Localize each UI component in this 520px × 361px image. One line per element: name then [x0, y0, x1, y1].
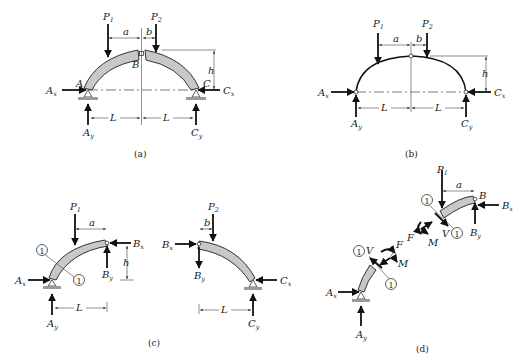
svg-text:1: 1	[77, 277, 82, 286]
pin-support-a	[43, 280, 61, 289]
svg-text:1: 1	[455, 230, 460, 239]
arch-segment-ab	[84, 50, 139, 90]
lower-axial-f-arrow	[380, 258, 390, 265]
upper-moment-tail	[421, 229, 428, 234]
label-ax: Ax	[325, 287, 337, 300]
label-l-right: L	[162, 112, 170, 123]
label-p2: P2	[150, 11, 162, 24]
upper-moment-m-arrow	[418, 222, 421, 234]
caption-c: (c)	[148, 338, 160, 348]
label-cy: Cy	[248, 318, 260, 331]
label-a: a	[456, 179, 462, 190]
label-p1: P1	[69, 201, 81, 214]
three-hinged-arch-figure: P1 P2 a b h A B C Ax Cx Ay Cy L L	[0, 0, 520, 361]
panel-b: P1 P2 a b h Ax Cx Ay Cy L L (b)	[317, 18, 506, 159]
pin-support-c	[244, 280, 262, 290]
lower-segment	[358, 265, 376, 292]
label-cy: Cy	[191, 127, 203, 140]
label-cy: Cy	[461, 118, 473, 131]
label-by-right: By	[193, 270, 205, 283]
label-bx: Bx	[132, 238, 144, 251]
panel-a: P1 P2 a b h A B C Ax Cx Ay Cy L L	[45, 11, 235, 159]
segment-ab	[49, 240, 108, 280]
label-l-left: L	[380, 102, 388, 113]
label-ay: Ay	[350, 118, 362, 131]
caption-a: (a)	[134, 149, 146, 159]
caption-d: (d)	[416, 344, 429, 354]
label-v-lower: V	[366, 245, 375, 256]
svg-text:1: 1	[389, 281, 394, 290]
label-by: By	[469, 227, 481, 240]
label-ay: Ay	[82, 127, 94, 140]
pin-support-a	[78, 90, 98, 100]
svg-text:1: 1	[357, 248, 362, 257]
label-ax: Ax	[45, 85, 57, 98]
label-b: b	[146, 26, 152, 37]
svg-text:1: 1	[40, 247, 45, 256]
label-by: By	[101, 269, 113, 282]
label-point-c: C	[203, 78, 211, 89]
label-l-left: L	[109, 112, 117, 123]
upper-axial-f-arrow	[421, 222, 432, 229]
caption-b: (b)	[405, 149, 418, 159]
label-point-a: A	[75, 78, 83, 89]
label-l-left: L	[75, 302, 83, 313]
label-h: h	[208, 65, 214, 76]
label-cx: Cx	[494, 87, 506, 100]
label-f-upper: F	[406, 232, 415, 243]
label-p2: P2	[207, 201, 219, 214]
label-ay: Ay	[355, 329, 367, 342]
label-cx: Cx	[223, 85, 235, 98]
label-p1: P1	[372, 18, 384, 31]
pin-support-c	[186, 90, 206, 100]
label-bx: Bx	[501, 200, 513, 213]
panel-c: 1 1 P1 a Bx By h Ax Ay L P2	[14, 201, 292, 348]
label-cx: Cx	[280, 275, 292, 288]
upper-segment	[440, 196, 475, 218]
label-p2: P2	[421, 18, 433, 31]
label-l-right: L	[434, 102, 442, 113]
label-ax: Ax	[14, 275, 26, 288]
label-point-b: B	[131, 59, 139, 70]
panel-d: 1 1 V F M P1 a B Bx By 1 1 V F M	[325, 164, 513, 354]
label-point-b: B	[478, 190, 486, 201]
label-h: h	[123, 257, 129, 268]
label-m-upper: M	[427, 237, 439, 248]
label-m-lower: M	[397, 258, 409, 269]
label-ay: Ay	[46, 318, 58, 331]
lower-moment-tail	[393, 256, 397, 262]
svg-text:1: 1	[425, 197, 430, 206]
label-a: a	[89, 217, 95, 228]
pin-support-a	[352, 292, 370, 302]
segment-bc	[198, 241, 255, 282]
label-f-lower: F	[395, 239, 404, 250]
label-l-right: L	[220, 304, 228, 315]
hinge-c	[464, 90, 468, 94]
label-p1: P1	[102, 11, 114, 24]
label-a: a	[393, 33, 399, 44]
hinge-b	[473, 197, 477, 201]
hinge-a	[354, 90, 358, 94]
label-bx-right: Bx	[161, 239, 173, 252]
label-v-upper: V	[442, 228, 451, 239]
label-a: a	[123, 26, 129, 37]
label-h: h	[482, 68, 488, 79]
label-b: b	[416, 33, 422, 44]
hinge-b-left	[105, 241, 109, 245]
hinge-b-right	[197, 242, 201, 246]
hinge-b	[409, 54, 413, 58]
label-ax: Ax	[317, 87, 329, 100]
label-b: b	[204, 217, 210, 228]
arch-segment-bc	[145, 50, 199, 90]
